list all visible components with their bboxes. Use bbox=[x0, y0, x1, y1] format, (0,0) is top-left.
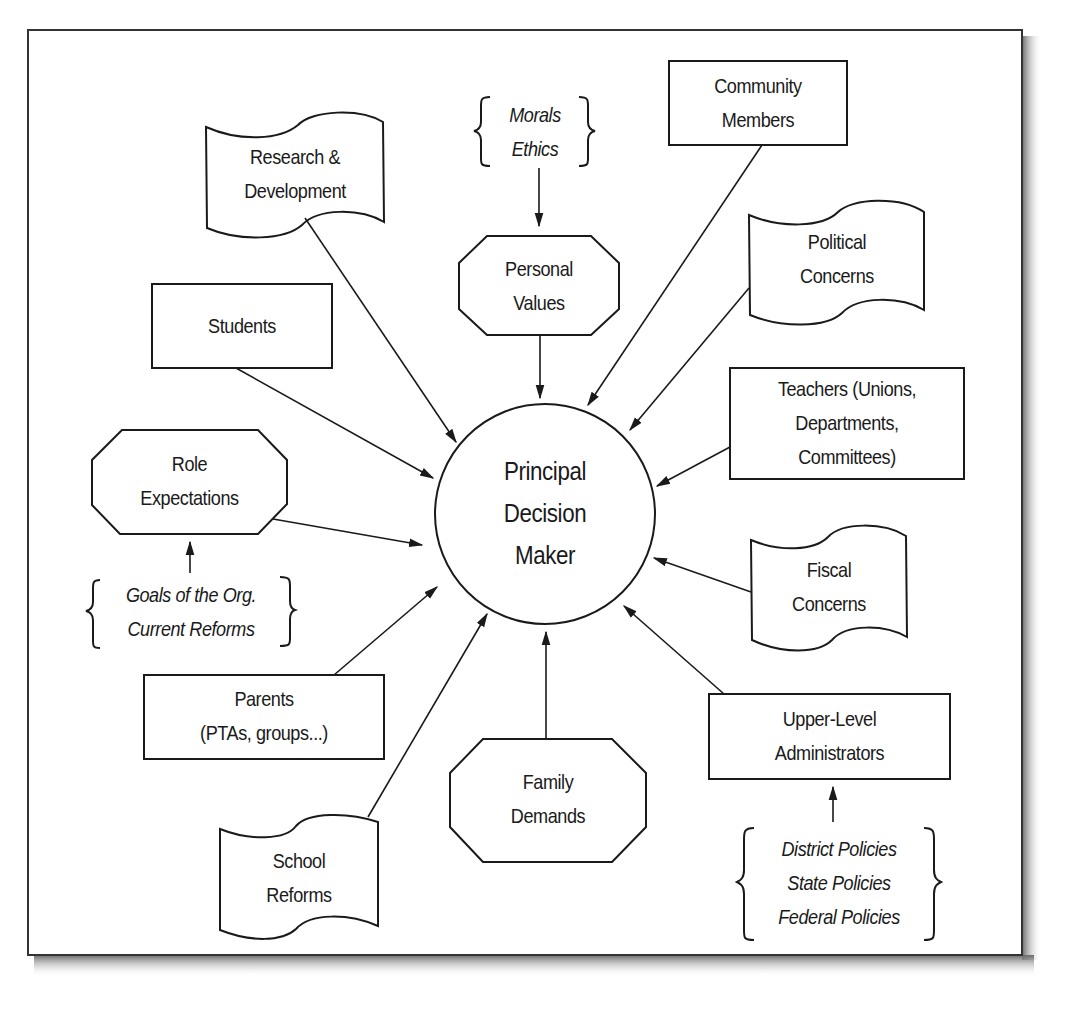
parents-line-2: (PTAs, groups...) bbox=[161, 716, 367, 750]
students-node-label: Students bbox=[165, 309, 320, 343]
school-reforms-line-1: School bbox=[231, 844, 367, 878]
students-line-1: Students bbox=[165, 309, 320, 343]
policies-line-2: State Policies bbox=[757, 866, 920, 900]
school-reforms-line-2: Reforms bbox=[231, 878, 367, 912]
family-line-2: Demands bbox=[464, 799, 633, 833]
role-node-label: Role Expectations bbox=[106, 447, 274, 515]
upper-line-2: Administrators bbox=[726, 736, 933, 770]
fiscal-node-label: Fiscal Concerns bbox=[763, 553, 895, 621]
family-line-1: Family bbox=[464, 765, 633, 799]
morals-line-2: Ethics bbox=[479, 132, 591, 166]
political-line-1: Political bbox=[764, 225, 910, 259]
upper-node-label: Upper-Level Administrators bbox=[726, 702, 933, 770]
research-node-label: Research & Development bbox=[210, 140, 380, 208]
parents-line-1: Parents bbox=[161, 682, 367, 716]
personal-values-line-1: Personal bbox=[470, 252, 608, 286]
teachers-node-label: Teachers (Unions, Departments, Committee… bbox=[746, 372, 947, 474]
research-line-2: Development bbox=[210, 174, 380, 208]
goals-line-2: Current Reforms bbox=[109, 612, 272, 646]
policies-line-1: District Policies bbox=[757, 832, 920, 866]
teachers-line-1: Teachers (Unions, bbox=[746, 372, 947, 406]
teachers-line-2: Departments, bbox=[746, 406, 947, 440]
role-line-1: Role bbox=[106, 447, 274, 481]
role-line-2: Expectations bbox=[106, 481, 274, 515]
fiscal-line-2: Concerns bbox=[763, 587, 895, 621]
fiscal-line-1: Fiscal bbox=[763, 553, 895, 587]
teachers-line-3: Committees) bbox=[746, 440, 947, 474]
personal-values-node-label: Personal Values bbox=[470, 252, 608, 320]
center-node-label: Principal Decision Maker bbox=[459, 450, 631, 576]
community-line-2: Members bbox=[681, 103, 834, 137]
policies-line-3: Federal Policies bbox=[757, 900, 920, 934]
community-line-1: Community bbox=[681, 69, 834, 103]
personal-values-line-2: Values bbox=[470, 286, 608, 320]
political-node-label: Political Concerns bbox=[764, 225, 910, 293]
center-line-3: Maker bbox=[459, 534, 631, 576]
goals-line-1: Goals of the Org. bbox=[109, 578, 272, 612]
family-node-label: Family Demands bbox=[464, 765, 633, 833]
policies-node-label: District Policies State Policies Federal… bbox=[757, 832, 920, 934]
parents-node-label: Parents (PTAs, groups...) bbox=[161, 682, 367, 750]
goals-node-label: Goals of the Org. Current Reforms bbox=[109, 578, 272, 646]
morals-line-1: Morals bbox=[479, 98, 591, 132]
community-node-label: Community Members bbox=[681, 69, 834, 137]
morals-node-label: Morals Ethics bbox=[479, 98, 591, 166]
center-line-1: Principal bbox=[459, 450, 631, 492]
school-reforms-node-label: School Reforms bbox=[231, 844, 367, 912]
upper-line-1: Upper-Level bbox=[726, 702, 933, 736]
research-line-1: Research & bbox=[210, 140, 380, 174]
center-line-2: Decision bbox=[459, 492, 631, 534]
political-line-2: Concerns bbox=[764, 259, 910, 293]
